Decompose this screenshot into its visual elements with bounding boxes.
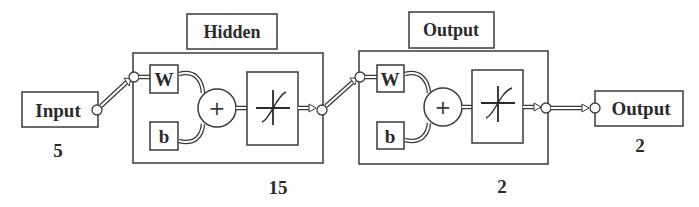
hidden-to-output-connector-icon <box>326 78 357 106</box>
input-label: Input <box>35 100 81 121</box>
hidden-bias-label: b <box>159 126 170 147</box>
input-port-icon <box>92 105 102 115</box>
hidden-weight-label: W <box>155 69 174 90</box>
output-weight-label: W <box>381 69 400 90</box>
hidden-output-port-icon <box>317 105 327 115</box>
hidden-input-port-icon <box>129 72 139 82</box>
output-layer: Output W b + 2 <box>355 12 551 197</box>
input-to-hidden-connector-icon <box>101 78 131 106</box>
hidden-layer: Hidden W b + 15 <box>129 14 327 198</box>
hidden-layer-size: 15 <box>269 177 288 198</box>
output-layer-to-output-connector-icon <box>551 104 589 112</box>
output-label: Output <box>611 98 671 119</box>
hidden-layer-label: Hidden <box>203 22 260 42</box>
output-layer-size: 2 <box>497 176 507 197</box>
output-sum-symbol: + <box>435 95 452 119</box>
output-layer-output-port-icon <box>541 103 551 113</box>
output-node: Output 2 <box>590 91 683 156</box>
hidden-sum-symbol: + <box>209 96 226 120</box>
output-layer-input-port-icon <box>355 72 365 82</box>
input-size: 5 <box>53 140 63 161</box>
output-port-icon <box>590 103 600 113</box>
neural-network-diagram: Input 5 Hidden W b + <box>0 0 699 207</box>
output-size: 2 <box>635 135 645 156</box>
output-layer-label: Output <box>423 20 479 40</box>
input-node: Input 5 <box>22 92 102 161</box>
output-bias-label: b <box>385 126 396 147</box>
